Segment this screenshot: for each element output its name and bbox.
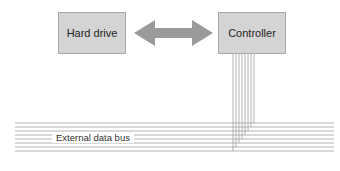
external-data-bus-label: External data bus [52,132,134,143]
diagram-canvas [0,0,340,171]
hard-drive-box: Hard drive [58,12,126,54]
bidirectional-arrow-icon [134,20,213,46]
controller-label: Controller [228,27,276,39]
hard-drive-label: Hard drive [67,27,118,39]
controller-wire-bundle [233,54,254,151]
controller-box: Controller [218,12,286,54]
